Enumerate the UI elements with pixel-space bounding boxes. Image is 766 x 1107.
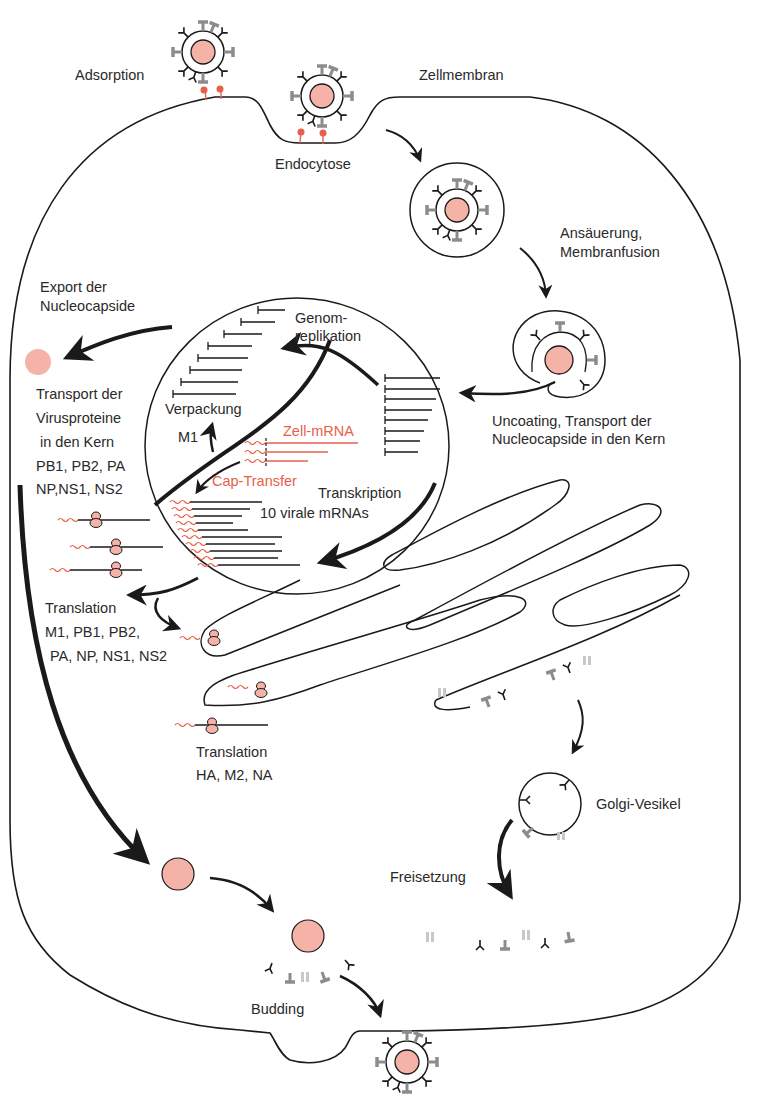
nucleocapsid-icon bbox=[25, 349, 51, 375]
receptor-icons bbox=[201, 86, 327, 145]
virion-endocytose-icon bbox=[292, 66, 352, 126]
membrane-spikes-icon bbox=[426, 930, 574, 950]
arrow-endocytose bbox=[386, 130, 420, 160]
label-membranfusion: Membranfusion bbox=[560, 243, 660, 262]
arrow-freisetzung bbox=[499, 820, 512, 895]
label-zellmembran: Zellmembran bbox=[419, 66, 504, 85]
endosome-icon bbox=[410, 163, 504, 257]
label-transport-5: NP,NS1, NS2 bbox=[36, 480, 123, 499]
label-freisetzung: Freisetzung bbox=[390, 868, 466, 887]
label-genom-1: Genom- bbox=[295, 309, 347, 328]
budding-spikes-icon bbox=[265, 957, 355, 982]
label-export-2: Nucleocapside bbox=[40, 297, 135, 316]
uncoating-vesicle-icon bbox=[513, 311, 605, 398]
label-genom-2: replikation bbox=[295, 327, 361, 346]
arrow-to-membrane bbox=[210, 878, 272, 910]
label-uncoating-2: Nucleocapside in den Kern bbox=[492, 430, 665, 449]
virion-released-icon bbox=[377, 1032, 437, 1092]
cytosol-translation-icon bbox=[50, 512, 163, 578]
arrow-translation-split bbox=[130, 578, 198, 595]
label-uncoating-1: Uncoating, Transport der bbox=[492, 412, 652, 431]
label-export-1: Export der bbox=[40, 278, 107, 297]
virion-adsorption-icon bbox=[173, 22, 233, 82]
label-translation2-1: Translation bbox=[196, 743, 267, 762]
label-endocytose: Endocytose bbox=[275, 155, 351, 174]
influenza-replication-diagram: Adsorption Zellmembran Endocytose Ansäue… bbox=[0, 0, 766, 1107]
arrow-m1 bbox=[211, 425, 213, 452]
er-spikes-icon bbox=[438, 656, 591, 709]
arrow-acidification bbox=[520, 248, 546, 296]
diagram-canvas bbox=[0, 0, 766, 1107]
arrow-to-budding bbox=[20, 485, 145, 860]
arrow-export bbox=[68, 327, 172, 357]
nucleocapsid-budding-icon bbox=[292, 920, 324, 952]
label-golgi: Golgi-Vesikel bbox=[596, 795, 681, 814]
label-ansaeuerung: Ansäuerung, bbox=[560, 224, 642, 243]
label-transport-4: PB1, PB2, PA bbox=[36, 457, 125, 476]
cell-mrna-icon bbox=[245, 438, 358, 466]
label-cap-transfer: Cap-Transfer bbox=[212, 472, 297, 491]
label-translation1-3: PA, NP, NS1, NS2 bbox=[50, 647, 167, 666]
label-verpackung: Verpackung bbox=[165, 400, 242, 419]
nucleocapsid-cytosol-icon bbox=[162, 858, 194, 890]
arrow-to-golgi bbox=[573, 700, 583, 752]
arrow-to-er bbox=[155, 598, 178, 628]
label-zell-mrna: Zell-mRNA bbox=[283, 422, 354, 441]
golgi-vesicle-icon bbox=[519, 773, 581, 840]
label-transkription: Transkription bbox=[318, 484, 401, 503]
label-transport-1: Transport der bbox=[36, 385, 123, 404]
label-translation1-1: Translation bbox=[45, 599, 116, 618]
arrow-uncoating bbox=[462, 382, 555, 394]
label-virale-mrnas: 10 virale mRNAs bbox=[260, 504, 369, 523]
label-m1: M1 bbox=[178, 428, 198, 447]
label-budding: Budding bbox=[251, 1000, 304, 1019]
label-translation2-2: HA, M2, NA bbox=[196, 766, 273, 785]
arrow-budding bbox=[340, 976, 380, 1015]
arrow-replication bbox=[285, 345, 378, 385]
er-translation-icon bbox=[175, 630, 268, 734]
label-transport-2: Virusproteine bbox=[36, 409, 121, 428]
label-adsorption: Adsorption bbox=[75, 66, 144, 85]
label-transport-3: in den Kern bbox=[40, 433, 114, 452]
label-translation1-2: M1, PB1, PB2, bbox=[45, 623, 140, 642]
